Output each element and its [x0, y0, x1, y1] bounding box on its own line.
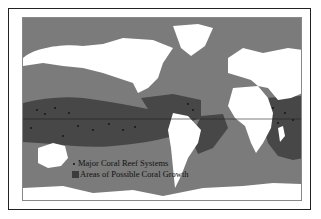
coral-area-swatch-icon	[72, 171, 79, 178]
legend-item-coral-growth: Areas of Possible Coral Growth	[72, 169, 189, 180]
legend-label: Areas of Possible Coral Growth	[80, 169, 189, 180]
legend-item-reef-systems: Major Coral Reef Systems	[72, 158, 189, 169]
map-legend: Major Coral Reef Systems Areas of Possib…	[72, 158, 189, 180]
legend-label: Major Coral Reef Systems	[78, 158, 168, 169]
reef-dot-icon	[73, 163, 75, 165]
